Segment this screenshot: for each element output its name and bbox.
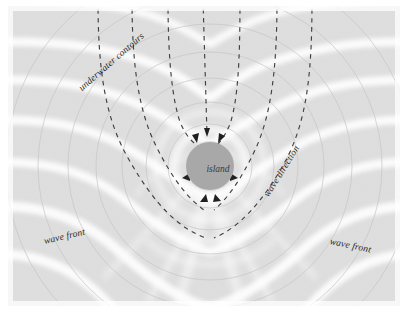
figure-canvas: underwater contours wave direction wave … <box>0 0 408 319</box>
paper-grain <box>8 6 400 306</box>
wave-refraction-svg <box>8 6 400 306</box>
diagram-plate: underwater contours wave direction wave … <box>8 6 400 306</box>
label-island: island <box>194 164 242 174</box>
